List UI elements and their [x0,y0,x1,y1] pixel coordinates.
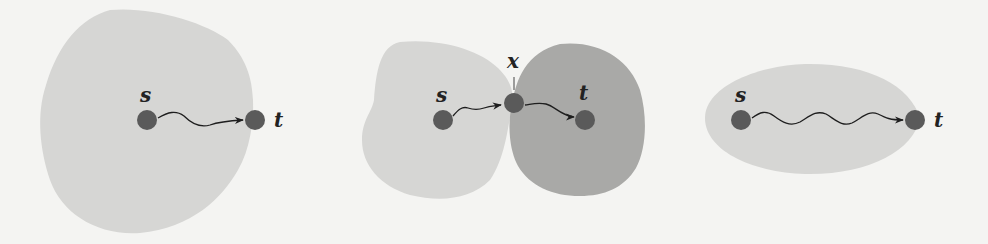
label-s: s [139,83,151,107]
diagram-canvas: s t s x t s t [0,0,988,244]
node-x [504,93,524,113]
label-x: x [506,49,520,73]
label-s: s [435,83,447,107]
node-s [137,110,157,130]
label-t: t [934,108,944,132]
label-t: t [274,108,284,132]
panel-2: s x t [362,41,645,198]
label-t: t [579,81,589,105]
node-t [245,110,265,130]
node-t [905,110,925,130]
node-s [731,110,751,130]
panel-3: s t [705,64,944,174]
node-s [433,110,453,130]
node-t [575,110,595,130]
panel-1: s t [40,9,284,233]
label-s: s [734,83,746,107]
